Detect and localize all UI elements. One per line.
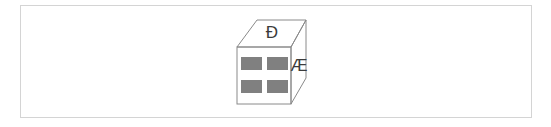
front-face-bar: [241, 57, 262, 70]
front-face-bar: [241, 80, 262, 93]
front-face-bar: [267, 80, 288, 93]
cube-front-face: [237, 47, 291, 104]
top-face-label: Ð: [266, 23, 278, 42]
diagram-canvas: Ð Æ: [0, 0, 551, 127]
right-face-label: Æ: [291, 56, 308, 75]
front-face-bar: [267, 57, 288, 70]
cube-figure: Ð Æ: [0, 0, 551, 127]
